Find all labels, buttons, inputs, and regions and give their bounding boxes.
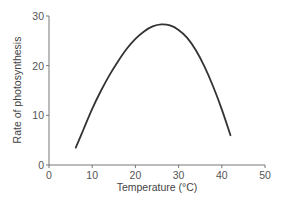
y-axis: 0102030 Rate of photosynthesis: [11, 10, 49, 171]
line-chart: 0102030 Rate of photosynthesis 010203040…: [0, 0, 286, 200]
x-tick-label: 10: [86, 169, 98, 181]
x-ticks: 01020304050: [46, 165, 271, 181]
x-axis-label: Temperature (°C): [117, 181, 198, 193]
y-tick-label: 10: [32, 109, 44, 121]
x-tick-label: 30: [173, 169, 185, 181]
x-tick-label: 50: [259, 169, 271, 181]
x-tick-label: 20: [130, 169, 142, 181]
plot-area: [76, 24, 231, 147]
x-axis: 01020304050 Temperature (°C): [46, 165, 271, 193]
y-tick-label: 30: [32, 10, 44, 22]
x-tick-label: 0: [46, 169, 52, 181]
y-axis-label: Rate of photosynthesis: [11, 37, 23, 144]
y-ticks: 0102030: [32, 10, 49, 171]
y-tick-label: 20: [32, 60, 44, 72]
y-tick-label: 0: [38, 159, 44, 171]
photosynthesis-rate-curve: [76, 24, 231, 147]
x-tick-label: 40: [216, 169, 228, 181]
